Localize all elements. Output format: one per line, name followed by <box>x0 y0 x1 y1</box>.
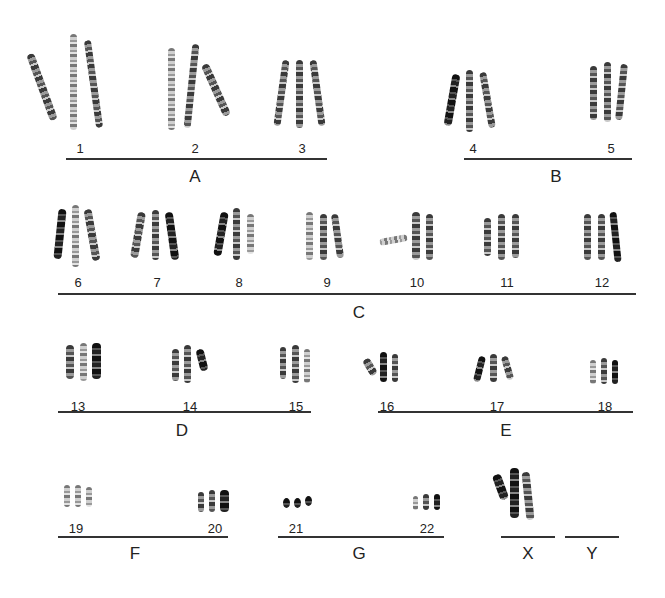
chromosome-set-x <box>492 468 540 524</box>
group-b-divider <box>464 158 632 160</box>
chromosome-set-6 <box>52 205 102 267</box>
chromosome-label-4: 4 <box>469 142 476 155</box>
chromosome-set-2 <box>160 40 240 132</box>
group-label-a: A <box>189 168 200 185</box>
chromosome-set-15 <box>280 345 314 385</box>
chromosome-set-19 <box>64 485 94 509</box>
chromosome-label-2: 2 <box>191 142 198 155</box>
chromosome-set-21 <box>283 496 315 510</box>
chromosome-set-4 <box>444 68 500 134</box>
chromosome-label-21: 21 <box>289 522 303 535</box>
group-a-divider <box>66 158 327 160</box>
chromosome-label-20: 20 <box>208 522 222 535</box>
chromosome-set-7 <box>130 210 186 266</box>
chromosome-set-3 <box>272 58 328 130</box>
group-label-y: Y <box>586 545 597 562</box>
chromosome-label-9: 9 <box>323 276 330 289</box>
chromosome-label-7: 7 <box>153 276 160 289</box>
chromosome-set-8 <box>213 208 263 268</box>
chromosome-set-18 <box>590 358 620 386</box>
chromosome-set-10 <box>380 212 440 266</box>
chromosome-label-10: 10 <box>410 276 424 289</box>
group-c-divider <box>58 293 636 295</box>
group-label-b: B <box>550 168 561 185</box>
chromosome-set-5 <box>588 62 638 124</box>
chromosome-set-16 <box>366 352 406 384</box>
chromosome-set-17 <box>476 354 516 384</box>
chromosome-set-22 <box>413 494 443 512</box>
group-label-g: G <box>352 545 365 562</box>
group-x-divider <box>501 536 555 538</box>
group-label-d: D <box>176 422 188 439</box>
group-label-c: C <box>353 304 365 321</box>
chromosome-set-13 <box>66 343 106 383</box>
chromosome-set-12 <box>582 212 628 268</box>
chromosome-set-9 <box>304 212 350 264</box>
group-label-x: X <box>522 545 533 562</box>
chromosome-label-22: 22 <box>420 522 434 535</box>
chromosome-label-8: 8 <box>235 276 242 289</box>
chromosome-set-14 <box>172 345 212 385</box>
chromosome-label-3: 3 <box>298 142 305 155</box>
chromosome-label-5: 5 <box>607 142 614 155</box>
chromosome-label-19: 19 <box>69 522 83 535</box>
chromosome-label-6: 6 <box>74 276 81 289</box>
group-label-f: F <box>130 545 140 562</box>
chromosome-label-1: 1 <box>76 142 83 155</box>
chromosome-set-1 <box>36 32 112 132</box>
chromosome-label-11: 11 <box>500 276 514 289</box>
group-y-divider <box>565 536 619 538</box>
group-e-divider <box>378 411 633 413</box>
chromosome-label-12: 12 <box>595 276 609 289</box>
chromosome-set-11 <box>482 212 526 264</box>
group-label-e: E <box>500 422 511 439</box>
chromosome-set-20 <box>198 490 232 514</box>
group-d-divider <box>58 411 311 413</box>
group-g-divider <box>278 536 444 538</box>
group-f-divider <box>58 536 228 538</box>
